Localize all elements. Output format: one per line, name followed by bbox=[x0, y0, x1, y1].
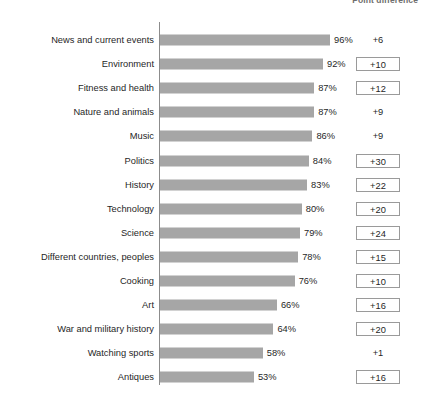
bar bbox=[160, 179, 307, 190]
bar-row: Nature and animals87%+9 bbox=[0, 100, 425, 124]
bar-value-label: 78% bbox=[302, 251, 321, 262]
point-difference-value: +15 bbox=[356, 250, 400, 264]
category-label: Watching sports bbox=[88, 348, 154, 359]
bar-track bbox=[160, 300, 277, 311]
bar-row: News and current events96%+6 bbox=[0, 28, 425, 52]
point-difference-value: +6 bbox=[356, 33, 400, 47]
bar-value-label: 86% bbox=[316, 131, 335, 142]
bar-track bbox=[160, 35, 330, 46]
point-difference-value: +22 bbox=[356, 178, 400, 192]
bar-value-label: 83% bbox=[311, 179, 330, 190]
point-difference-value: +30 bbox=[356, 154, 400, 168]
bar-track bbox=[160, 83, 314, 94]
bar bbox=[160, 59, 323, 70]
point-difference-value: +20 bbox=[356, 322, 400, 336]
bar bbox=[160, 348, 263, 359]
category-label: Politics bbox=[125, 155, 154, 166]
bar-row: Science79%+24 bbox=[0, 221, 425, 245]
category-label: Fitness and health bbox=[78, 83, 154, 94]
bar-row: Antiques53%+16 bbox=[0, 365, 425, 389]
bar-track bbox=[160, 107, 314, 118]
bar bbox=[160, 203, 302, 214]
bar-track bbox=[160, 203, 302, 214]
bar bbox=[160, 131, 312, 142]
bar bbox=[160, 275, 295, 286]
bar-value-label: 96% bbox=[334, 35, 353, 46]
point-difference-value: +10 bbox=[356, 57, 400, 71]
bar-track bbox=[160, 324, 273, 335]
category-label: Science bbox=[121, 227, 154, 238]
category-label: Environment bbox=[102, 59, 154, 70]
category-label: Music bbox=[130, 131, 154, 142]
bar-value-label: 76% bbox=[299, 275, 318, 286]
category-label: Nature and animals bbox=[73, 107, 154, 118]
point-difference-value: +9 bbox=[356, 105, 400, 119]
bar-value-label: 58% bbox=[267, 348, 286, 359]
bar-track bbox=[160, 131, 312, 142]
bar-row: Politics84%+30 bbox=[0, 148, 425, 172]
point-difference-value: +12 bbox=[356, 81, 400, 95]
bar bbox=[160, 35, 330, 46]
bar-row: Technology80%+20 bbox=[0, 197, 425, 221]
point-difference-value: +10 bbox=[356, 274, 400, 288]
bar-row: Environment92%+10 bbox=[0, 52, 425, 76]
bar-row: History83%+22 bbox=[0, 173, 425, 197]
bar-row: Cooking76%+10 bbox=[0, 269, 425, 293]
point-difference-value: +24 bbox=[356, 226, 400, 240]
bar bbox=[160, 227, 300, 238]
category-label: War and military history bbox=[57, 324, 154, 335]
bar bbox=[160, 83, 314, 94]
bar-value-label: 66% bbox=[281, 300, 300, 311]
bar bbox=[160, 251, 298, 262]
category-label: History bbox=[125, 179, 154, 190]
bar-value-label: 87% bbox=[318, 107, 337, 118]
chart-header: Point difference bbox=[0, 0, 425, 9]
bar-track bbox=[160, 155, 309, 166]
point-difference-column-header: Point difference bbox=[352, 0, 418, 5]
bar-value-label: 80% bbox=[306, 203, 325, 214]
category-label: Cooking bbox=[120, 275, 154, 286]
bar-row: Music86%+9 bbox=[0, 124, 425, 148]
bar bbox=[160, 107, 314, 118]
bar-track bbox=[160, 348, 263, 359]
bar-value-label: 79% bbox=[304, 227, 323, 238]
bar-track bbox=[160, 275, 295, 286]
bar-rows: News and current events96%+6Environment9… bbox=[0, 28, 425, 389]
point-difference-value: +9 bbox=[356, 129, 400, 143]
bar-row: Fitness and health87%+12 bbox=[0, 76, 425, 100]
point-difference-value: +1 bbox=[356, 346, 400, 360]
bar-row: Art66%+16 bbox=[0, 293, 425, 317]
category-label: Different countries, peoples bbox=[41, 251, 154, 262]
bar bbox=[160, 155, 309, 166]
bar-value-label: 87% bbox=[318, 83, 337, 94]
bar-value-label: 84% bbox=[313, 155, 332, 166]
bar bbox=[160, 300, 277, 311]
category-label: Technology bbox=[107, 203, 154, 214]
bar-track bbox=[160, 251, 298, 262]
bar-row: Watching sports58%+1 bbox=[0, 341, 425, 365]
bar-row: Different countries, peoples78%+15 bbox=[0, 245, 425, 269]
bar bbox=[160, 324, 273, 335]
bar-track bbox=[160, 372, 254, 383]
category-label: Antiques bbox=[118, 372, 154, 383]
bar-track bbox=[160, 227, 300, 238]
point-difference-value: +16 bbox=[356, 298, 400, 312]
category-label: News and current events bbox=[51, 35, 154, 46]
horizontal-bar-chart: Point difference News and current events… bbox=[0, 0, 425, 403]
bar-track bbox=[160, 179, 307, 190]
bar-track bbox=[160, 59, 323, 70]
bar-value-label: 92% bbox=[327, 59, 346, 70]
bar-row: War and military history64%+20 bbox=[0, 317, 425, 341]
category-label: Art bbox=[142, 300, 154, 311]
point-difference-value: +16 bbox=[356, 370, 400, 384]
bar bbox=[160, 372, 254, 383]
point-difference-value: +20 bbox=[356, 202, 400, 216]
bar-value-label: 53% bbox=[258, 372, 277, 383]
bar-value-label: 64% bbox=[277, 324, 296, 335]
